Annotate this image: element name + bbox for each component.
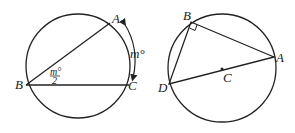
figure: A B C m° m° 2 B A C D (0, 0, 295, 133)
right-angle-icon (190, 25, 198, 31)
label-a: A (275, 50, 284, 65)
left-circle (26, 14, 130, 118)
angle-label-den: 2 (52, 75, 57, 86)
arc-label: m° (130, 46, 145, 61)
left-diagram: A B C m° m° 2 (15, 11, 145, 118)
triangle-bad (169, 22, 274, 84)
label-b: B (183, 8, 191, 23)
label-a: A (111, 11, 120, 26)
label-c: C (223, 70, 232, 85)
right-diagram: B A C D (157, 8, 284, 122)
label-c: C (128, 78, 137, 93)
label-b: B (15, 77, 23, 92)
label-d: D (157, 80, 168, 95)
